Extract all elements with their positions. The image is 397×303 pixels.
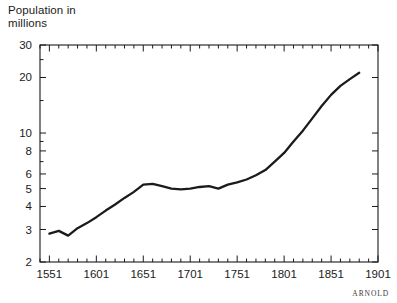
x-axis-tick-label: 1701 bbox=[170, 268, 210, 280]
y-axis-tick-label: 10 bbox=[6, 127, 32, 139]
x-axis-tick-label: 1651 bbox=[123, 268, 163, 280]
axis-ticks bbox=[40, 45, 378, 262]
x-axis-tick-label: 1801 bbox=[264, 268, 304, 280]
publisher-credit: ARNOLD bbox=[352, 289, 389, 298]
y-axis-tick-label: 5 bbox=[6, 183, 32, 195]
y-axis-tick-label: 4 bbox=[6, 200, 32, 212]
x-axis-tick-label: 1551 bbox=[29, 268, 69, 280]
data-series-group bbox=[49, 73, 359, 236]
y-axis-tick-label: 6 bbox=[6, 168, 32, 180]
x-axis-tick-label: 1601 bbox=[76, 268, 116, 280]
plot-frame bbox=[40, 45, 378, 262]
y-axis-tick-label: 20 bbox=[6, 71, 32, 83]
x-axis-tick-label: 1851 bbox=[311, 268, 351, 280]
plot-area bbox=[0, 0, 397, 303]
y-axis-tick-label: 30 bbox=[6, 39, 32, 51]
y-axis-tick-label: 3 bbox=[6, 224, 32, 236]
y-axis-tick-label: 8 bbox=[6, 145, 32, 157]
y-axis-tick-label: 2 bbox=[6, 256, 32, 268]
population-chart-figure: Population inmillions 302010865432 15511… bbox=[0, 0, 397, 303]
x-axis-tick-label: 1901 bbox=[358, 268, 397, 280]
x-axis-tick-label: 1751 bbox=[217, 268, 257, 280]
